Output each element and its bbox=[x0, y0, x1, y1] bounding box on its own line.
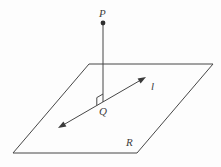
label-line-l: l bbox=[151, 81, 154, 92]
line-l-arrowhead-upper-icon bbox=[138, 77, 146, 84]
point-p-dot bbox=[101, 21, 106, 26]
line-l-arrowhead-lower-icon bbox=[58, 121, 66, 128]
label-plane-r: R bbox=[126, 137, 133, 148]
label-point-p: P bbox=[99, 8, 106, 19]
figure-drawing bbox=[0, 0, 221, 167]
line-l bbox=[64, 80, 141, 125]
label-point-q: Q bbox=[99, 106, 107, 117]
plane-outline bbox=[13, 64, 213, 153]
geometry-figure: P Q l R bbox=[0, 0, 221, 167]
